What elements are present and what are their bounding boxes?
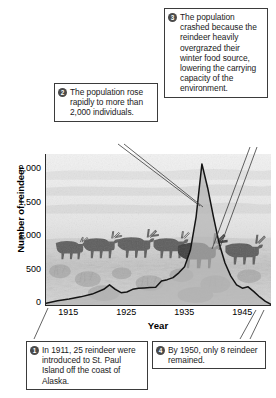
- callout-badge-1: 1: [30, 346, 39, 355]
- chart: Number of reindeer 0 500 1,000 1,500 2,0…: [0, 150, 276, 315]
- plot-area: [45, 154, 271, 306]
- callout-badge-2: 2: [58, 88, 67, 97]
- callout-box-1: 1 In 1911, 25 reindeer were introduced t…: [26, 341, 148, 390]
- callout-box-2: 2 The population rose rapidly to more th…: [54, 83, 158, 122]
- y-tick-label: 1,500: [7, 197, 41, 207]
- y-tick-label: 500: [7, 264, 41, 274]
- callout-badge-3: 3: [168, 13, 177, 22]
- x-axis-title: Year: [45, 320, 271, 331]
- y-tick-label: 2,000: [7, 163, 41, 173]
- y-tick-label: 0: [7, 297, 41, 307]
- x-tick-label: 1915: [48, 307, 88, 317]
- callout-badge-4: 4: [156, 346, 165, 355]
- callout-box-4: 4 By 1950, only 8 reindeer remained.: [152, 341, 266, 369]
- callout-text-3: The population crashed because the reind…: [180, 12, 263, 94]
- x-tick-label: 1925: [106, 307, 146, 317]
- x-axis-tick-labels: 1915 1925 1935 1945: [45, 307, 271, 321]
- x-tick-label: 1935: [164, 307, 204, 317]
- y-tick-label: 1,000: [7, 230, 41, 240]
- callout-text-4: By 1950, only 8 reindeer remained.: [168, 345, 261, 365]
- x-tick-label: 1945: [222, 307, 262, 317]
- callout-text-2: The population rose rapidly to more than…: [70, 87, 153, 118]
- callout-text-1: In 1911, 25 reindeer were introduced to …: [42, 345, 143, 386]
- population-curve: [46, 154, 271, 305]
- callout-box-3: 3 The population crashed because the rei…: [164, 8, 268, 98]
- reindeer-population-figure: Number of reindeer 0 500 1,000 1,500 2,0…: [0, 0, 276, 398]
- population-line: [46, 164, 271, 304]
- y-axis-tick-labels: 0 500 1,000 1,500 2,000: [0, 150, 41, 315]
